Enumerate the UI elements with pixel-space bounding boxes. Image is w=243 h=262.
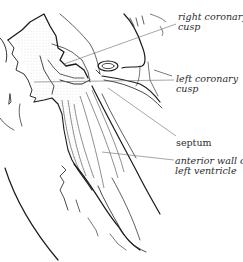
label-right-coronary-cusp-line2: cusp	[178, 22, 243, 32]
label-right-coronary-cusp: right coronary cusp	[178, 12, 243, 32]
label-anterior-wall: anterior wall of left ventricle	[175, 156, 243, 176]
label-anterior-wall-line2: left ventricle	[175, 166, 243, 176]
outflow-structures	[96, 14, 162, 108]
label-septum-line1: septum	[176, 138, 212, 148]
label-left-coronary-cusp-line2: cusp	[176, 84, 238, 94]
label-septum: septum	[176, 138, 212, 148]
label-ticks	[150, 14, 172, 76]
leader-right-coronary-cusp	[64, 24, 176, 64]
leader-septum	[108, 88, 176, 136]
anatomy-drawing	[0, 0, 243, 262]
label-left-coronary-cusp: left coronary cusp	[176, 74, 238, 94]
leader-anterior-wall	[102, 152, 174, 160]
